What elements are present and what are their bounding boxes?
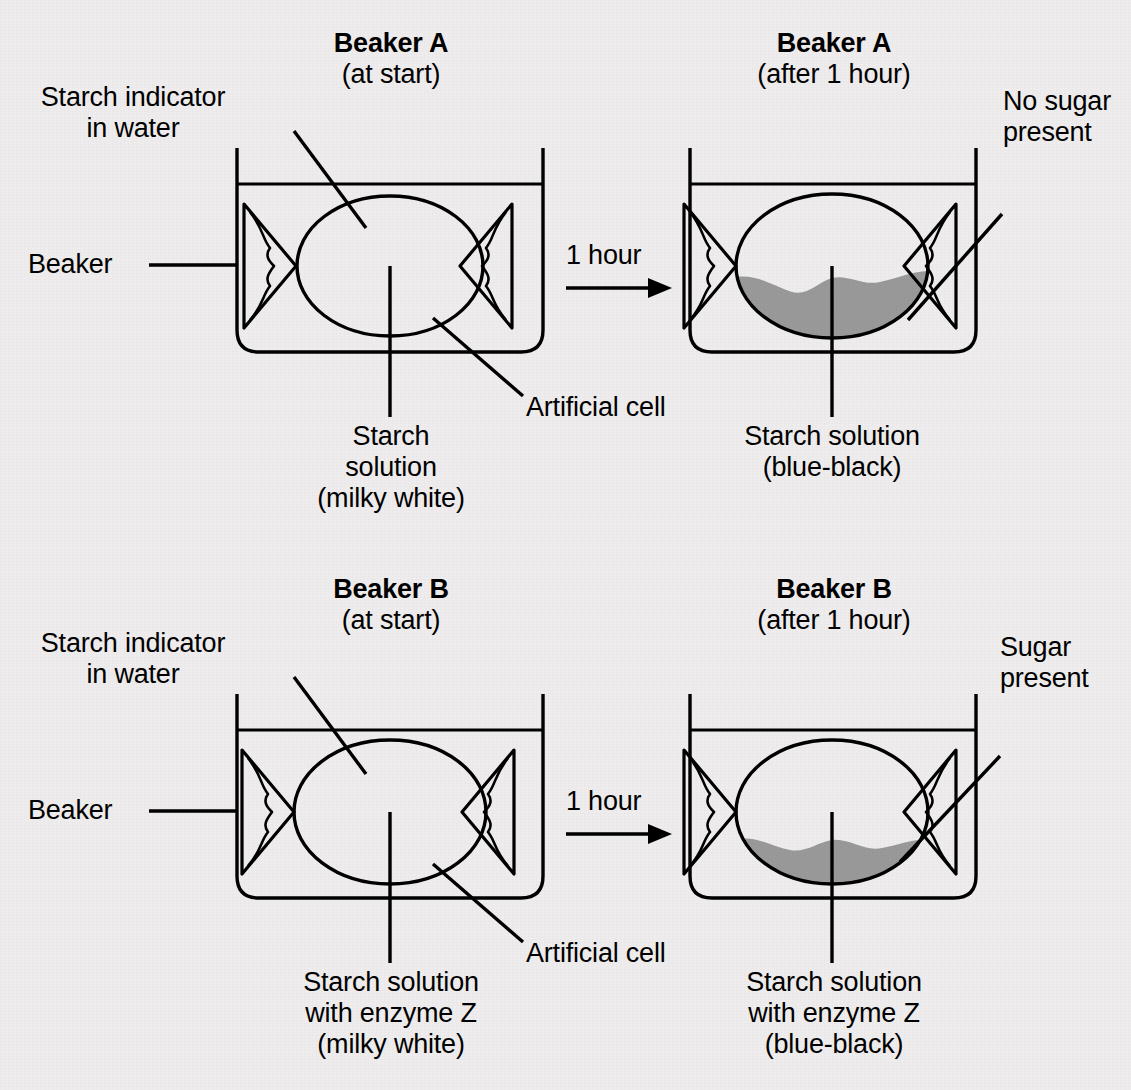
panel-title-beaker-b-after: Beaker B (after 1 hour) <box>686 574 982 636</box>
leader-sugar-present <box>900 756 1000 862</box>
diagram-vector-layer <box>0 0 1131 1090</box>
label-artificial-cell-a: Artificial cell <box>526 392 666 423</box>
panel-title-main: Beaker A <box>334 28 448 58</box>
arrow-label-bottom: 1 hour <box>566 786 641 817</box>
label-starch-indicator-b: Starch indicator in water <box>22 628 244 690</box>
beaker-b-start-graphic <box>149 677 543 963</box>
label-starch-indicator-a: Starch indicator in water <box>22 82 244 144</box>
beaker-a-after-graphic <box>684 148 1002 417</box>
panel-title-main: Beaker B <box>776 574 891 604</box>
label-starch-solution-b-after: Starch solution with enzyme Z (blue-blac… <box>706 967 962 1059</box>
panel-title-sub: (after 1 hour) <box>686 605 982 636</box>
label-sugar-present: Sugar present <box>1000 632 1089 694</box>
leader-starch-indicator <box>294 677 366 774</box>
label-artificial-cell-b: Artificial cell <box>526 938 666 969</box>
arrow-label-top: 1 hour <box>566 240 641 271</box>
label-beaker-a: Beaker <box>28 249 112 280</box>
artificial-cell <box>684 194 956 360</box>
artificial-cell <box>684 740 956 910</box>
panel-title-beaker-a-start: Beaker A (at start) <box>236 28 546 90</box>
label-starch-solution-b-start: Starch solution with enzyme Z (milky whi… <box>266 967 516 1059</box>
panel-title-sub: (after 1 hour) <box>686 59 982 90</box>
panel-title-beaker-a-after: Beaker A (after 1 hour) <box>686 28 982 90</box>
beaker-a-start-graphic <box>149 131 543 417</box>
leader-artificial-cell <box>433 318 523 396</box>
label-beaker-b: Beaker <box>28 795 112 826</box>
artificial-cell <box>244 196 512 336</box>
transition-arrow-bottom <box>566 824 672 844</box>
beaker-b-after-graphic <box>684 694 1000 963</box>
diagram-canvas: Beaker A (at start) Starch indicator in … <box>0 0 1131 1090</box>
label-starch-solution-a-after: Starch solution (blue-black) <box>702 421 962 483</box>
panel-title-beaker-b-start: Beaker B (at start) <box>236 574 546 636</box>
artificial-cell <box>242 740 514 884</box>
transition-arrow-top <box>566 278 672 298</box>
label-no-sugar-present: No sugar present <box>1003 86 1111 148</box>
panel-title-main: Beaker B <box>333 574 448 604</box>
label-starch-solution-a-start: Starch solution (milky white) <box>282 421 500 513</box>
panel-title-sub: (at start) <box>236 59 546 90</box>
panel-title-sub: (at start) <box>236 605 546 636</box>
panel-title-main: Beaker A <box>777 28 891 58</box>
leader-artificial-cell <box>433 864 523 942</box>
